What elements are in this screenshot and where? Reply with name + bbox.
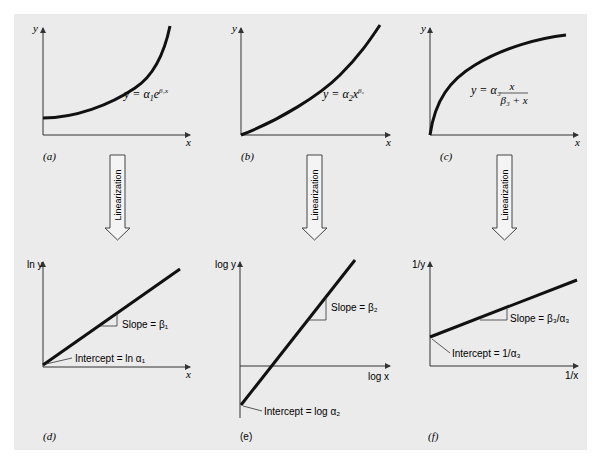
slope-label-f: Slope = β₃/α₃ <box>510 313 569 324</box>
linearization-arrow-a: Linearization <box>105 155 130 240</box>
equation-b: y = α2xβ₂ <box>322 87 365 103</box>
panel-label-c: (c) <box>440 150 453 163</box>
panel-e-linear-log: log y log x Slope = β₂ Intercept = log α… <box>215 259 390 442</box>
axis-label-y: y <box>231 22 237 34</box>
svg-text:Linearization: Linearization <box>113 169 123 220</box>
equation-c-numerator: x <box>509 80 515 92</box>
panel-c-saturation: y x y = α₃ x β₃ + x (c) <box>420 22 580 163</box>
linearization-figure: y x y = α1eβ₁x (a) y x y = α2xβ₂ (b) y x… <box>0 0 603 461</box>
axis-label-logx: log x <box>368 371 389 382</box>
panel-f-linear-inverse: 1/y 1/x Slope = β₃/α₃ Intercept = 1/α₃ (… <box>412 259 578 443</box>
equation-a: y = α1eβ₁x <box>123 87 169 103</box>
axis-label-x: x <box>574 136 580 148</box>
intercept-label-d: Intercept = ln α₁ <box>75 353 146 364</box>
svg-text:Linearization: Linearization <box>500 169 510 220</box>
panel-a-exponential: y x y = α1eβ₁x (a) <box>32 22 191 163</box>
linearization-arrow-c: Linearization <box>492 155 517 240</box>
equation-c-denominator: β₃ + x <box>499 94 527 106</box>
slope-label-d: Slope = β₁ <box>122 319 169 330</box>
axis-label-logy: log y <box>215 259 236 270</box>
linearization-arrow-b: Linearization <box>302 155 327 240</box>
axis-label-y: y <box>420 22 426 34</box>
panel-label-d: (d) <box>43 430 56 443</box>
panel-b-power: y x y = α2xβ₂ (b) <box>231 22 391 163</box>
panel-label-a: (a) <box>43 150 56 163</box>
panel-label-e: (e) <box>240 431 252 442</box>
intercept-label-f: Intercept = 1/α₃ <box>452 348 521 359</box>
axis-label-x: x <box>185 368 191 380</box>
axis-label-y: y <box>32 22 38 34</box>
panel-label-f: (f) <box>428 430 439 443</box>
panel-label-b: (b) <box>241 150 254 163</box>
equation-c: y = α₃ <box>470 83 501 97</box>
axis-label-x: x <box>385 136 391 148</box>
axis-label-invx: 1/x <box>565 370 578 381</box>
svg-text:Linearization: Linearization <box>310 169 320 220</box>
intercept-label-e: Intercept = log α₂ <box>264 406 340 417</box>
slope-label-e: Slope = β₂ <box>331 302 378 313</box>
axis-label-x: x <box>185 136 191 148</box>
panel-d-linear-ln: ln y x Slope = β₁ Intercept = ln α₁ (d) <box>27 259 191 443</box>
axis-label-lny: ln y <box>27 259 43 270</box>
axis-label-invy: 1/y <box>412 259 425 270</box>
